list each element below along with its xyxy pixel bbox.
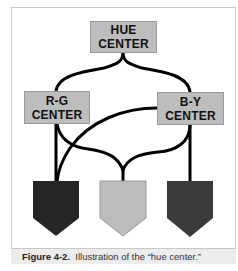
hue-center-node: HUE CENTER: [90, 21, 157, 53]
caption-label: Figure 4-2.: [22, 251, 70, 262]
hue-center-line2: CENTER: [98, 37, 149, 51]
caption-text: Illustration of the “hue center.”: [75, 251, 201, 262]
by-center-line1: B-Y: [180, 95, 201, 109]
left-output-pentagon: [33, 181, 79, 236]
edge-hue-by: [123, 53, 190, 92]
hue-center-line1: HUE: [111, 23, 137, 37]
by-center-line2: CENTER: [165, 109, 216, 123]
rg-center-line1: R-G: [46, 94, 69, 108]
figure-caption: Figure 4-2. Illustration of the “hue cen…: [11, 248, 236, 264]
middle-output-pentagon: [100, 181, 146, 236]
rg-center-line2: CENTER: [32, 108, 83, 122]
rg-center-node: R-G CENTER: [24, 91, 90, 124]
edge-by-middle: [123, 125, 190, 170]
edge-hue-rg: [56, 53, 123, 91]
right-output-pentagon: [167, 181, 213, 237]
by-center-node: B-Y CENTER: [157, 92, 224, 125]
edge-rg-middle: [57, 124, 123, 170]
